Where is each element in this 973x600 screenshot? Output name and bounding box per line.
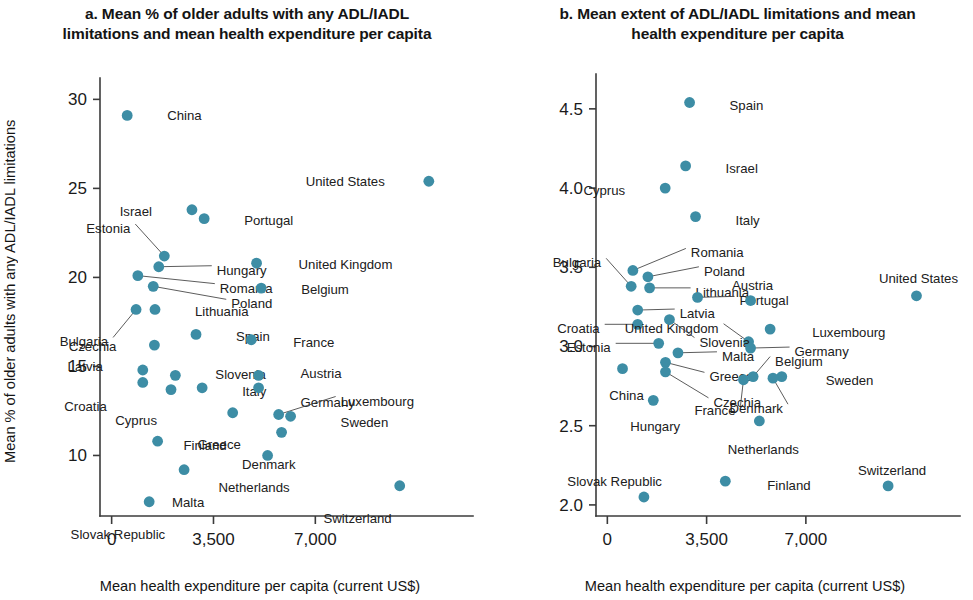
data-point[interactable] [664, 314, 675, 325]
data-point-label: Austria [732, 278, 774, 293]
label-leader-line [153, 286, 226, 299]
data-point[interactable] [150, 304, 161, 315]
data-point[interactable] [745, 343, 756, 354]
data-point[interactable] [227, 407, 238, 418]
data-point[interactable] [765, 324, 776, 335]
y-tick-label: 4.0 [559, 179, 583, 198]
y-tick-label: 2.5 [559, 417, 583, 436]
panel-a-y-axis-title: Mean % of older adults with any ADL/IADL… [2, 66, 18, 516]
data-point[interactable] [253, 382, 264, 393]
x-tick-label: 7,000 [294, 530, 337, 549]
data-point-label: Israel [120, 204, 152, 219]
data-point[interactable] [179, 464, 190, 475]
data-point[interactable] [738, 374, 749, 385]
data-point-label: United States [306, 174, 386, 189]
data-point[interactable] [690, 211, 701, 222]
data-point[interactable] [137, 365, 148, 376]
data-point[interactable] [251, 258, 262, 269]
data-point[interactable] [423, 176, 434, 187]
data-point[interactable] [253, 370, 264, 381]
data-point[interactable] [285, 411, 296, 422]
data-point-label: China [609, 388, 644, 403]
data-point[interactable] [148, 281, 159, 292]
data-point[interactable] [627, 265, 638, 276]
y-tick-label: 10 [68, 446, 87, 465]
label-leader-line [648, 267, 699, 277]
label-leader-line [665, 372, 708, 398]
data-point-label: Finland [767, 478, 810, 493]
data-point[interactable] [768, 373, 779, 384]
data-point[interactable] [273, 409, 284, 420]
data-point[interactable] [648, 395, 659, 406]
data-point[interactable] [639, 492, 650, 503]
data-point-label: Belgium [775, 354, 823, 369]
panel-b: b. Mean extent of ADL/IADL limitations a… [490, 0, 973, 600]
figure-root: a. Mean % of older adults with any ADL/I… [0, 0, 973, 600]
data-point[interactable] [632, 305, 643, 316]
data-point-label: Greece [198, 437, 241, 452]
data-point-label: France [293, 335, 334, 350]
data-point[interactable] [149, 340, 160, 351]
data-point-label: Slovak Republic [567, 474, 662, 489]
data-point[interactable] [132, 270, 143, 281]
data-point[interactable] [660, 366, 671, 377]
data-point-label: Croatia [557, 321, 600, 336]
data-point[interactable] [617, 363, 628, 374]
data-point[interactable] [199, 213, 210, 224]
data-point[interactable] [660, 183, 671, 194]
data-point[interactable] [246, 334, 257, 345]
x-tick-label: 3,500 [685, 530, 728, 549]
data-point[interactable] [394, 480, 405, 491]
data-point[interactable] [166, 384, 177, 395]
data-point-label: Netherlands [728, 442, 800, 457]
data-point[interactable] [692, 292, 703, 303]
data-point[interactable] [276, 427, 287, 438]
data-point-label: China [167, 108, 202, 123]
panel-b-x-axis-title: Mean health expenditure per capita (curr… [520, 578, 970, 594]
panel-a-x-axis-title: Mean health expenditure per capita (curr… [40, 578, 480, 594]
data-point[interactable] [144, 496, 155, 507]
data-point-label: United Kingdom [299, 257, 393, 272]
data-point-label: Romania [691, 245, 744, 260]
y-tick-label: 25 [68, 179, 87, 198]
data-point[interactable] [684, 97, 695, 108]
data-point[interactable] [153, 261, 164, 272]
data-point[interactable] [643, 271, 654, 282]
label-leader-line [606, 258, 631, 286]
data-point-label: Slovak Republic [71, 527, 166, 542]
data-point[interactable] [883, 480, 894, 491]
data-point[interactable] [680, 160, 691, 171]
data-point[interactable] [187, 204, 198, 215]
data-point[interactable] [262, 450, 273, 461]
data-point-label: Czechia [69, 339, 117, 354]
data-point[interactable] [673, 347, 684, 358]
data-point[interactable] [748, 371, 759, 382]
data-point-label: Portugal [244, 213, 293, 228]
data-point[interactable] [745, 295, 756, 306]
data-point[interactable] [256, 283, 267, 294]
data-point[interactable] [191, 329, 202, 340]
data-point[interactable] [137, 377, 148, 388]
data-point-label: Lithuania [195, 304, 249, 319]
y-tick-label: 2.0 [559, 496, 583, 515]
y-tick-label: 30 [68, 90, 87, 109]
data-point[interactable] [159, 251, 170, 262]
data-point[interactable] [720, 476, 731, 487]
data-point-label: Netherlands [218, 480, 290, 495]
data-point[interactable] [660, 357, 671, 368]
data-point-label: Austria [301, 366, 343, 381]
data-point[interactable] [170, 370, 181, 381]
data-point-label: Latvia [68, 359, 104, 374]
data-point[interactable] [122, 110, 133, 121]
data-point[interactable] [197, 382, 208, 393]
data-point-label: Israel [726, 161, 758, 176]
data-point[interactable] [626, 281, 637, 292]
data-point[interactable] [131, 304, 142, 315]
data-point[interactable] [911, 290, 922, 301]
data-point[interactable] [152, 436, 163, 447]
data-point[interactable] [644, 282, 655, 293]
label-leader-line [638, 309, 675, 310]
label-leader-line [138, 276, 215, 284]
data-point[interactable] [754, 416, 765, 427]
data-point[interactable] [653, 338, 664, 349]
